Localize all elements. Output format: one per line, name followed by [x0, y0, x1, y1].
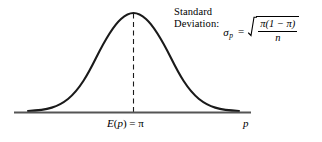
annotation-line-1: Standard	[174, 6, 212, 17]
sigma-subscript: p	[229, 31, 233, 40]
axis-center-label-e: E	[107, 117, 114, 129]
standard-deviation-label: Standard Deviation:	[174, 6, 219, 29]
normal-distribution-figure: Standard Deviation: σp = π(1 − π) n	[0, 0, 322, 142]
sigma-formula: σp = π(1 − π) n	[223, 6, 299, 46]
sigma-symbol-group: σp	[223, 22, 233, 40]
axis-center-label: E(p) = π	[107, 117, 144, 129]
standard-deviation-annotation: Standard Deviation: σp = π(1 − π) n	[174, 6, 299, 46]
axis-center-label-pi: π	[138, 117, 144, 129]
axis-right-label: p	[243, 117, 249, 129]
annotation-line-2: Deviation:	[174, 18, 219, 30]
equals-sign: =	[238, 25, 244, 37]
square-root-expression: π(1 − π) n	[248, 16, 299, 46]
fraction-numerator: π(1 − π)	[258, 18, 297, 31]
fraction-denominator: n	[275, 32, 280, 45]
sigma-icon: σ	[223, 26, 228, 38]
fraction: π(1 − π) n	[258, 17, 297, 44]
radicand: π(1 − π) n	[256, 16, 299, 46]
